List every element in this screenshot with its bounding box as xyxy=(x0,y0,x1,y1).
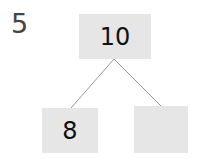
whole-box: 10 xyxy=(79,14,151,59)
part-box-left: 8 xyxy=(42,108,98,153)
part-box-right-blank[interactable] xyxy=(134,106,188,153)
